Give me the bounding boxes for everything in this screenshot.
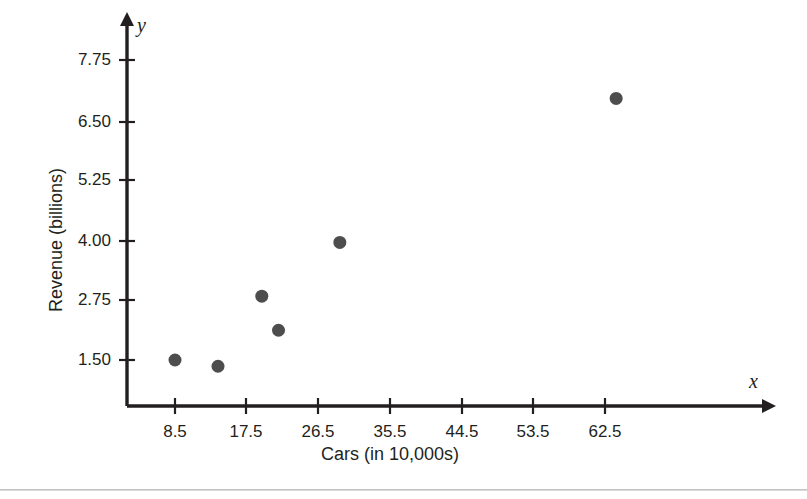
bottom-divider [0, 489, 807, 491]
x-axis-tick-label: 44.5 [445, 422, 478, 442]
x-axis-title: Cars (in 10,000s) [321, 444, 459, 465]
x-axis-tick-label: 62.5 [588, 422, 621, 442]
data-point [255, 290, 268, 303]
chart-canvas [0, 0, 807, 470]
y-axis-tick-label: 1.50 [78, 350, 111, 370]
x-axis-tick-label: 26.5 [301, 422, 334, 442]
y-axis-tick-label: 2.75 [78, 290, 111, 310]
data-point [212, 360, 225, 373]
ticks-group [119, 60, 605, 414]
y-axis-variable-label: y [137, 14, 146, 37]
data-point [333, 236, 346, 249]
y-axis-tick-label: 6.50 [78, 112, 111, 132]
x-axis-tick-label: 8.5 [163, 422, 187, 442]
y-axis-arrowhead [120, 12, 134, 26]
data-point [169, 354, 182, 367]
x-axis-variable-label: x [749, 370, 758, 393]
data-point [272, 324, 285, 337]
data-point [610, 92, 623, 105]
x-axis-tick-label: 35.5 [373, 422, 406, 442]
plot-area: y x 1.502.754.005.256.507.75 8.517.526.5… [0, 0, 807, 470]
x-axis-arrowhead [762, 399, 776, 413]
data-points-group [169, 92, 623, 373]
y-axis-tick-label: 7.75 [78, 50, 111, 70]
x-axis-tick-label: 53.5 [516, 422, 549, 442]
axes-group [120, 12, 776, 413]
x-axis-tick-label: 17.5 [229, 422, 262, 442]
y-axis-title: Revenue (billions) [46, 168, 67, 312]
y-axis-tick-label: 5.25 [78, 170, 111, 190]
scatter-plot-figure: y x 1.502.754.005.256.507.75 8.517.526.5… [0, 0, 807, 499]
y-axis-tick-label: 4.00 [78, 231, 111, 251]
